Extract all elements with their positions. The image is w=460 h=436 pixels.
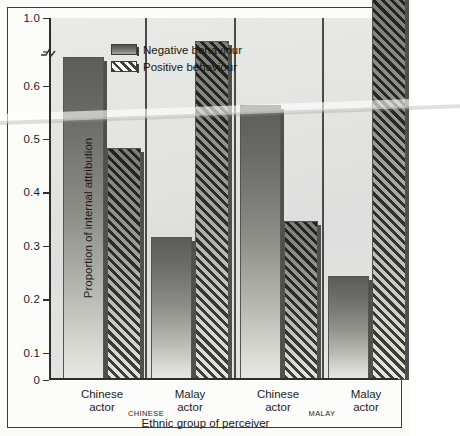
bar-fill <box>195 41 229 380</box>
y-tick-label-0.4: 0.4 <box>23 186 40 198</box>
bar-shadow <box>141 152 144 380</box>
x-category-line1: Chinese <box>257 388 299 401</box>
y-tick-label-0.6: 0.6 <box>23 80 40 92</box>
y-axis-title: Proportion of internal attribution <box>82 138 94 298</box>
x-category-line1: Malay <box>175 388 206 401</box>
legend-item-positive[interactable]: Positive behaviour <box>111 59 242 74</box>
legend: Negative behaviour Positive behaviour <box>111 42 242 76</box>
y-axis-line <box>49 18 51 380</box>
y-tick-label-0: 0 <box>33 374 40 386</box>
bar-positive-malay-chinese[interactable] <box>284 221 318 380</box>
x-category-line2: actor <box>81 401 123 414</box>
y-tick-label-1.0: 1.0 <box>23 12 40 24</box>
y-tick-1.0 <box>43 18 49 19</box>
bar-shadow <box>229 45 232 380</box>
x-axis-line <box>49 378 398 380</box>
x-category-line1: Malay <box>351 388 382 401</box>
x-category-malay-malay: Malay actor <box>351 388 382 414</box>
y-tick-0.1 <box>43 353 49 354</box>
y-tick-0.6 <box>43 86 49 87</box>
y-tick-0.5 <box>43 139 49 140</box>
y-tick-0.2 <box>43 299 49 300</box>
y-tick-label-0.1: 0.1 <box>23 347 40 359</box>
legend-label-positive: Positive behaviour <box>143 61 237 73</box>
x-category-line2: actor <box>175 401 206 414</box>
bar-positive-malay-malay[interactable] <box>372 0 406 380</box>
y-tick-0.4 <box>43 192 49 193</box>
bar-negative-malay-malay[interactable] <box>328 276 369 380</box>
y-tick-label-0.3: 0.3 <box>23 240 40 252</box>
bar-shadow <box>406 0 409 380</box>
bar-fill <box>151 237 192 380</box>
bar-fill <box>240 105 281 380</box>
legend-item-negative[interactable]: Negative behaviour <box>111 42 242 57</box>
x-category-line1: Chinese <box>81 388 123 401</box>
legend-swatch-positive-icon <box>111 61 137 72</box>
legend-label-negative: Negative behaviour <box>143 44 242 56</box>
y-tick-0 <box>43 380 49 381</box>
x-category-chinese-chinese: Chinese actor <box>81 388 123 414</box>
axis-break-squiggle-icon <box>40 47 56 59</box>
plot-area: 1.0 0.6 0.5 0.4 0.3 0.2 0.1 0 Negative b… <box>49 18 398 380</box>
bar-fill <box>372 0 406 380</box>
y-tick-0.3 <box>43 246 49 247</box>
x-category-line2: actor <box>257 401 299 414</box>
bar-positive-chinese-chinese[interactable] <box>107 148 141 380</box>
bar-shadow <box>318 225 321 380</box>
y-tick-label-0.5: 0.5 <box>23 133 40 145</box>
x-category-chinese-malay: Malay actor <box>175 388 206 414</box>
y-tick-label-0.2: 0.2 <box>23 293 40 305</box>
x-axis-title: Ethnic group of perceiver <box>0 417 411 429</box>
bar-fill <box>107 148 141 380</box>
legend-swatch-negative-icon <box>111 44 137 55</box>
group-separator <box>322 18 324 380</box>
bar-negative-malay-chinese[interactable] <box>240 105 281 380</box>
x-category-malay-chinese: Chinese actor <box>257 388 299 414</box>
bar-fill <box>284 221 318 380</box>
x-category-line2: actor <box>351 401 382 414</box>
bar-negative-chinese-malay[interactable] <box>151 237 192 380</box>
bar-fill <box>328 276 369 380</box>
bar-positive-chinese-malay[interactable] <box>195 41 229 380</box>
